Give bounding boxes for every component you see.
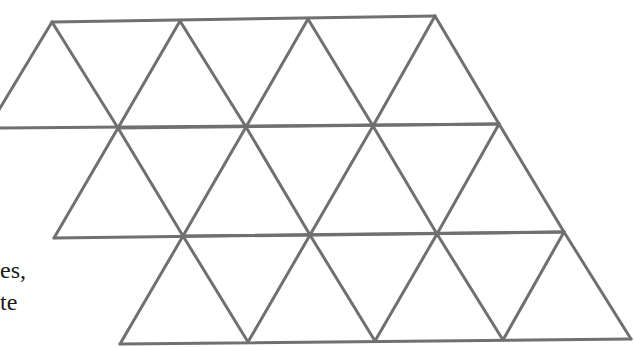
row-1-diagonal-right — [180, 21, 246, 127]
row-1-diagonal-left — [118, 21, 180, 128]
row-3-diagonal-right — [310, 235, 375, 341]
row-2-diagonal-right — [373, 126, 437, 234]
row-1-diagonal-right — [435, 16, 499, 124]
row-2-diagonal-right — [499, 124, 564, 232]
row-1-diagonal-left — [246, 19, 308, 127]
row-2-top-edge — [118, 124, 499, 128]
row-2-diagonal-left — [54, 128, 118, 238]
row-2-diagonal-right — [118, 128, 183, 236]
row-2-diagonal-left — [437, 124, 499, 234]
cropped-text-line-1: es, — [0, 258, 26, 282]
row-3-diagonal-right — [437, 234, 503, 340]
row-2-diagonal-right — [246, 127, 310, 235]
row-3-diagonal-right — [183, 236, 248, 342]
row-1-diagonal-left — [0, 22, 52, 128]
cropped-text-line-2: te — [0, 290, 17, 314]
row-3-top-edge — [183, 232, 564, 236]
row-2-diagonal-left — [183, 127, 246, 236]
row-3-diagonal-left — [375, 234, 437, 341]
row-1-diagonal-left — [373, 16, 435, 126]
row-1-diagonal-right — [308, 19, 373, 126]
row-3-diagonal-left — [248, 235, 310, 342]
row-2-diagonal-left — [310, 126, 373, 235]
row-1-top-edge — [52, 16, 435, 22]
row-3-diagonal-right — [564, 232, 631, 339]
row-1-diagonal-right — [52, 22, 118, 128]
row-3-diagonal-left — [120, 236, 183, 344]
row-3-diagonal-left — [503, 232, 564, 340]
triangle-grid-figure — [0, 0, 634, 347]
